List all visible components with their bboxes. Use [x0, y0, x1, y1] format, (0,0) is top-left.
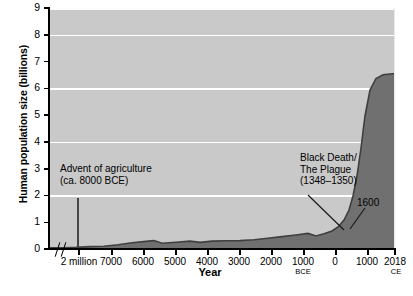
x-tick-2	[143, 250, 145, 255]
x-tick-0	[78, 250, 80, 255]
x-tick-sublabel-ce: CE	[391, 267, 401, 276]
annotation-line: (ca. 8000 BCE)	[60, 175, 152, 187]
y-tick-4	[44, 141, 49, 143]
annotation-black-death: Black Death/ The Plague (1348–1350)	[300, 152, 357, 187]
x-tick-5	[239, 250, 241, 255]
x-tick-label-1: 7000	[100, 256, 122, 267]
x-tick-1	[111, 250, 113, 255]
axis-break-slash-1	[55, 242, 61, 257]
y-tick-label-1: 1	[0, 215, 40, 227]
y-tick-0	[44, 248, 49, 250]
annotation-year-1600: 1600	[357, 197, 379, 209]
x-tick-3	[175, 250, 177, 255]
y-tick-7	[44, 61, 49, 63]
annotation-line: (1348–1350)	[300, 175, 357, 187]
y-tick-8	[44, 34, 49, 36]
y-tick-5	[44, 114, 49, 116]
x-tick-7	[303, 250, 305, 255]
y-tick-label-9: 9	[0, 1, 40, 13]
annotation-advent-of-agriculture: Advent of agriculture (ca. 8000 BCE)	[60, 163, 152, 186]
black-death-leader-lines	[50, 8, 395, 249]
y-tick-label-2: 2	[0, 188, 40, 200]
axis-break-slash-2	[61, 242, 67, 257]
annotation-line: The Plague	[300, 164, 357, 176]
y-tick-label-8: 8	[0, 28, 40, 40]
x-tick-label-8: 0	[332, 256, 338, 267]
annotation-line: Black Death/	[300, 152, 357, 164]
x-tick-10	[394, 250, 396, 255]
x-tick-4	[207, 250, 209, 255]
x-tick-label-0: 2 million	[61, 256, 98, 267]
y-tick-label-6: 6	[0, 81, 40, 93]
y-tick-label-7: 7	[0, 55, 40, 67]
y-tick-9	[44, 7, 49, 9]
y-tick-label-5: 5	[0, 108, 40, 120]
x-axis-title: Year	[150, 266, 270, 278]
x-tick-label-7: 1000	[292, 256, 314, 267]
x-tick-6	[271, 250, 273, 255]
x-tick-sublabel-bce: BCE	[295, 267, 310, 276]
chart-figure: Human population size (billions)	[0, 0, 413, 296]
y-tick-label-4: 4	[0, 135, 40, 147]
y-tick-label-0: 0	[0, 242, 40, 254]
x-tick-8	[335, 250, 337, 255]
x-tick-label-10: 2018	[384, 256, 406, 267]
y-tick-6	[44, 88, 49, 90]
y-tick-label-3: 3	[0, 162, 40, 174]
x-tick-label-9: 1000	[356, 256, 378, 267]
plot-right-border	[394, 8, 395, 249]
y-tick-3	[44, 168, 49, 170]
y-tick-1	[44, 222, 49, 224]
y-axis-line	[48, 7, 50, 250]
annotation-line: Advent of agriculture	[60, 163, 152, 175]
x-axis-line	[48, 248, 396, 250]
y-tick-2	[44, 195, 49, 197]
plot-area	[50, 8, 395, 249]
x-tick-9	[367, 250, 369, 255]
